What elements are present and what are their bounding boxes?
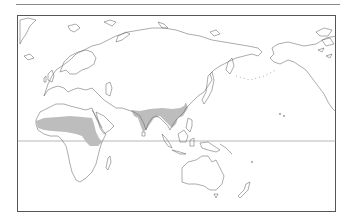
coastline-canadian-arctic [316, 28, 334, 58]
coastline-franz-josef [104, 20, 116, 26]
range-china-coast [178, 102, 188, 114]
coastline-sulawesi [190, 138, 194, 146]
coastline-java [172, 150, 186, 154]
coastline-tasmania [214, 194, 218, 198]
coastline-new-siberian [210, 30, 220, 36]
coastline-kamchatka [226, 58, 234, 74]
coastline-australia [182, 156, 224, 190]
coastline-sri-lanka [142, 132, 145, 136]
island-pacific [251, 161, 252, 162]
coastline-new-zealand [238, 182, 250, 198]
island-chain-aleutians [236, 70, 276, 80]
coastline-borneo [178, 130, 188, 142]
coastline-philippines [186, 118, 192, 132]
island-hawaii [283, 115, 284, 116]
island-hawaii [279, 113, 280, 114]
coastline-iceland [24, 54, 34, 60]
coastline-british-isles [44, 70, 54, 82]
coastline-caspian [106, 82, 112, 96]
coastline-madagascar [106, 156, 111, 170]
coastline-arabia [96, 112, 114, 134]
coastline-greenland [20, 18, 36, 44]
coastline-novaya-zemlya [116, 32, 130, 42]
coastline-north-america [270, 36, 336, 112]
coastline-svalbard [68, 24, 80, 32]
world-map [0, 0, 352, 224]
range-africa-sahel [36, 116, 102, 146]
coastline-severnaya [158, 22, 168, 28]
coastline-new-guinea [200, 142, 220, 152]
range-south-asia [131, 106, 186, 132]
coastline-scandinavia [60, 50, 96, 74]
coastline-solomons [220, 144, 232, 154]
coastline-japan [202, 72, 214, 104]
